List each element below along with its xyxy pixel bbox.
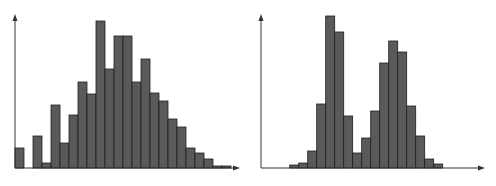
histogram-bar xyxy=(371,111,380,168)
histogram-bar xyxy=(186,148,195,168)
histogram-bar xyxy=(87,94,96,168)
bars-group xyxy=(15,21,231,168)
histogram-bar xyxy=(434,164,443,168)
histogram-bar xyxy=(114,36,123,168)
histogram-bar xyxy=(326,16,335,168)
y-axis-arrow-icon xyxy=(259,14,264,21)
histogram-bar xyxy=(168,119,177,168)
histogram-bar xyxy=(317,104,326,168)
histogram-bar xyxy=(380,63,389,168)
histogram-unimodal-svg xyxy=(0,0,248,186)
histogram-bar xyxy=(141,59,150,168)
histogram-bar xyxy=(78,82,87,168)
histogram-bar xyxy=(96,21,105,168)
histogram-bar xyxy=(15,148,24,168)
histogram-bar xyxy=(425,159,434,168)
histogram-bimodal xyxy=(248,0,496,186)
histogram-bar xyxy=(362,138,371,168)
y-axis-arrow-icon xyxy=(13,14,18,21)
histogram-bar xyxy=(33,136,42,168)
histogram-bar xyxy=(204,159,213,168)
histogram-bar xyxy=(123,36,132,168)
histogram-bar xyxy=(353,153,362,168)
histogram-bar xyxy=(407,106,416,168)
histogram-bar xyxy=(132,82,141,168)
histogram-bar xyxy=(335,32,344,168)
bars-group xyxy=(290,16,443,168)
histogram-bar xyxy=(51,105,60,168)
histogram-bar xyxy=(308,151,317,168)
histogram-bar xyxy=(159,101,168,168)
x-axis-arrow-icon xyxy=(233,166,240,171)
histogram-bar xyxy=(177,127,186,168)
histogram-bar xyxy=(42,163,51,168)
histogram-bar xyxy=(389,41,398,168)
histogram-unimodal xyxy=(0,0,248,186)
x-axis-arrow-icon xyxy=(478,166,485,171)
histogram-bar xyxy=(60,143,69,168)
histogram-bar xyxy=(195,153,204,168)
histogram-bar xyxy=(398,52,407,168)
histogram-bar xyxy=(416,136,425,168)
histogram-bar xyxy=(299,163,308,168)
histogram-bar xyxy=(105,69,114,168)
histogram-bimodal-svg xyxy=(248,0,496,186)
histogram-bar xyxy=(150,93,159,168)
histogram-bar xyxy=(344,116,353,168)
histogram-bar xyxy=(69,115,78,168)
